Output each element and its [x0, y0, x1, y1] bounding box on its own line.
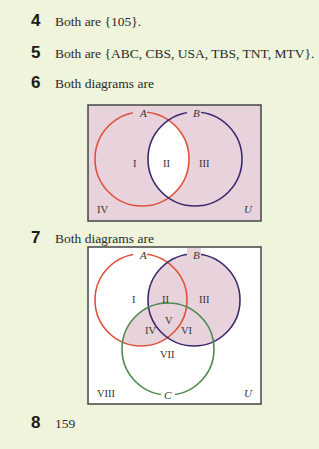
item-number: 5 — [31, 43, 40, 63]
label-a: A — [139, 107, 147, 119]
universe-label: U — [244, 203, 253, 215]
venn-diagram-two-sets: A B I II III IV U — [87, 104, 262, 222]
region-label: IV — [97, 204, 108, 215]
label-c: C — [164, 389, 172, 401]
region-label: I — [133, 158, 137, 169]
label-b: B — [193, 107, 200, 119]
universe-label: U — [244, 387, 253, 399]
item-text: Both diagrams are — [55, 231, 154, 247]
item-number: 6 — [31, 73, 40, 93]
item-text: Both diagrams are — [55, 76, 154, 92]
label-a: A — [139, 249, 147, 261]
region-label: V — [165, 315, 173, 326]
region-label: VIII — [97, 388, 116, 399]
item-text: 159 — [55, 416, 75, 432]
region-label: VI — [181, 325, 193, 336]
region-label: III — [199, 158, 210, 169]
item-number: 7 — [31, 228, 40, 248]
region-label: II — [162, 294, 169, 305]
region-label: IV — [145, 325, 156, 336]
region-label: VII — [160, 349, 175, 360]
item-text: Both are {105}. — [55, 14, 141, 30]
region-label: II — [163, 158, 170, 169]
venn-diagram-three-sets: A B C I II III IV V VI VII VIII U — [87, 246, 262, 405]
item-text: Both are {ABC, CBS, USA, TBS, TNT, MTV}. — [55, 46, 314, 62]
region-label: I — [132, 294, 136, 305]
region-label: III — [199, 294, 210, 305]
label-b: B — [193, 249, 200, 261]
item-number: 4 — [31, 11, 40, 31]
item-number: 8 — [31, 413, 40, 433]
